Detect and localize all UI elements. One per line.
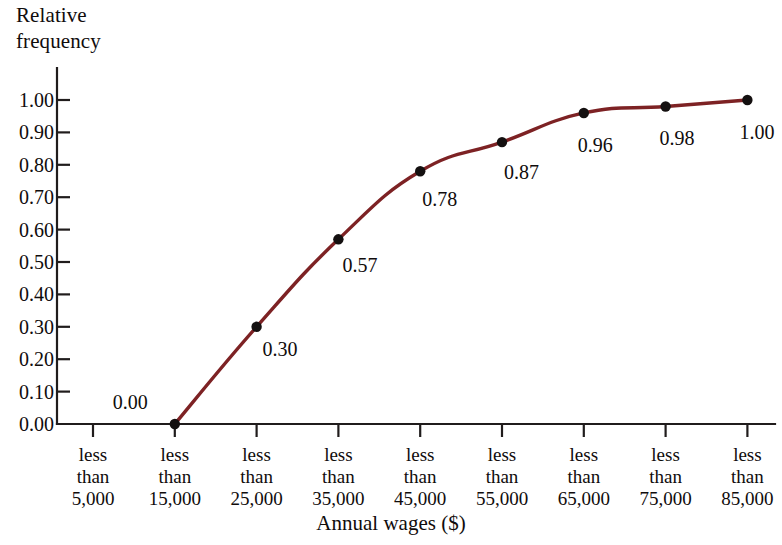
y-axis-tick-label: 0.60 [0,220,54,240]
x-axis-tick-label: lessthan45,000 [375,444,465,510]
x-axis-tick-label-line: 5,000 [48,488,138,510]
x-axis-tick-label-line: than [702,466,782,488]
data-point-label: 0.96 [578,135,613,155]
data-point-label: 0.87 [504,162,539,182]
x-axis-tick-label: lessthan25,000 [212,444,302,510]
x-axis-tick-label-line: less [293,444,383,466]
axis-lines [57,68,775,424]
x-axis-tick-label-line: 75,000 [621,488,711,510]
x-axis-tick-label-line: than [457,466,547,488]
x-axis-title: Annual wages ($) [0,511,782,535]
x-axis-tick-label-line: 25,000 [212,488,302,510]
cumulative-frequency-chart: Relative frequency 1.000.900.800.700.600… [0,0,782,545]
data-point-label: 0.78 [422,189,457,209]
x-axis-tick-label: lessthan55,000 [457,444,547,510]
x-axis-tick-label-line: 15,000 [130,488,220,510]
x-axis-tick-label-line: than [375,466,465,488]
y-axis-tick-label: 0.20 [0,349,54,369]
x-axis-tick-label-line: less [375,444,465,466]
x-axis-tick-label: lessthan15,000 [130,444,220,510]
x-axis-tick-label-line: than [539,466,629,488]
y-axis-tick-label: 0.00 [0,414,54,434]
x-axis-tick-label-line: than [212,466,302,488]
x-axis-tick-label-line: 85,000 [702,488,782,510]
y-axis-tick-label: 0.90 [0,122,54,142]
data-point-label: 0.30 [263,339,298,359]
x-axis-tick-label-line: than [48,466,138,488]
x-axis-tick-label-line: less [48,444,138,466]
y-axis-tick-label: 0.30 [0,317,54,337]
x-axis-tick-label-line: less [702,444,782,466]
y-axis-tick-label: 1.00 [0,90,54,110]
y-axis-tick-label: 0.50 [0,252,54,272]
axis-ticks [57,100,747,437]
x-axis-tick-label-line: less [212,444,302,466]
x-axis-tick-label-line: 55,000 [457,488,547,510]
x-axis-tick-label-line: than [621,466,711,488]
data-point-label: 0.98 [660,128,695,148]
y-axis-tick-label: 0.80 [0,155,54,175]
x-axis-tick-label: lessthan75,000 [621,444,711,510]
data-point-label: 1.00 [739,122,774,142]
x-axis-tick-label: lessthan35,000 [293,444,383,510]
data-point-label: 0.57 [342,255,377,275]
data-point-label: 0.00 [113,392,148,412]
x-axis-tick-label-line: less [130,444,220,466]
x-axis-tick-label: lessthan65,000 [539,444,629,510]
x-axis-tick-label-line: less [621,444,711,466]
y-axis-tick-label: 0.10 [0,382,54,402]
x-axis-tick-label-line: 65,000 [539,488,629,510]
y-axis-tick-label: 0.40 [0,284,54,304]
x-axis-tick-label-line: than [130,466,220,488]
x-axis-tick-label-line: 45,000 [375,488,465,510]
x-axis-tick-label-line: less [457,444,547,466]
x-axis-tick-label-line: than [293,466,383,488]
y-axis-tick-label: 0.70 [0,187,54,207]
x-axis-tick-label-line: 35,000 [293,488,383,510]
x-axis-tick-label: lessthan85,000 [702,444,782,510]
x-axis-tick-label: lessthan5,000 [48,444,138,510]
x-axis-tick-label-line: less [539,444,629,466]
